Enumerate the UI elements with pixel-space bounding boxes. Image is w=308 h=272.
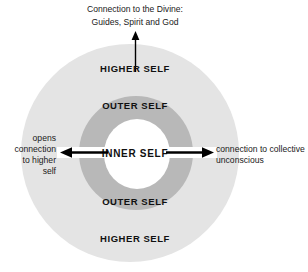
higher-self-label-bottom: HIGHER SELF [100,233,170,244]
divine-caption-line-1: Connection to the Divine: [87,3,183,16]
outer-self-label-top: OUTER SELF [102,100,168,111]
arrow-left-to-higher-self-icon [60,147,108,158]
left-caption-line-1: opens [14,133,56,144]
inner-self-label: INNER SELF [102,148,168,159]
divine-caption-line-2: Guides, Spirit and God [87,16,183,29]
higher-self-label-top: HIGHER SELF [100,63,170,74]
right-caption: connection to collective unconscious [216,144,305,166]
arrow-right-to-collective-unconscious-icon [166,147,214,158]
left-caption-line-4: self [14,166,56,177]
left-caption-line-2: connection [14,144,56,155]
right-caption-line-2: unconscious [216,155,305,166]
left-caption: opens connection to higher self [14,133,56,177]
self-model-diagram: Connection to the Divine: Guides, Spirit… [0,0,308,272]
outer-self-label-bottom: OUTER SELF [102,196,168,207]
divine-connection-caption: Connection to the Divine: Guides, Spirit… [87,3,183,28]
left-caption-line-3: to higher [14,155,56,166]
right-caption-line-1: connection to collective [216,144,305,155]
